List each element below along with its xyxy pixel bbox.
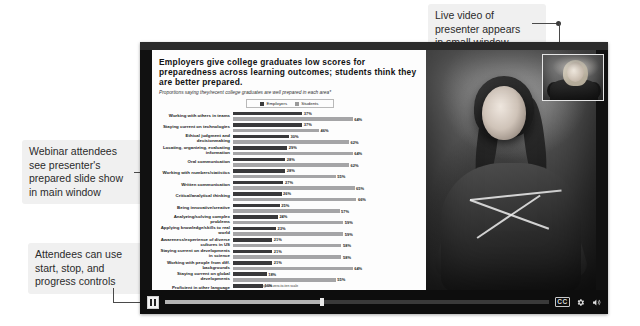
chart-row: Written communication27%65%: [159, 180, 420, 191]
webinar-window: Employers give college graduates low sco…: [140, 42, 608, 314]
bar-segment: [233, 163, 349, 167]
pause-icon[interactable]: [147, 296, 159, 309]
chart-bar-students: 65%: [233, 186, 420, 191]
bar-value-label: 28%: [287, 168, 295, 173]
bar-value-label: 55%: [337, 174, 345, 179]
chart-row: Applying knowledge/skills to real world2…: [159, 226, 420, 237]
bar-value-label: 55%: [337, 277, 345, 282]
bar-segment: [233, 112, 302, 116]
progress-bar[interactable]: [165, 300, 549, 304]
bar-value-label: 21%: [274, 249, 282, 254]
bar-segment: [233, 227, 276, 231]
bar-segment: [233, 169, 285, 173]
bar-value-label: 21%: [274, 237, 282, 242]
legend-label-employers: Employers: [266, 101, 287, 106]
bar-segment: [233, 152, 353, 156]
chart-bar-employers: 28%: [233, 157, 420, 162]
bar-value-label: 28%: [287, 157, 295, 162]
bar-value-label: 64%: [354, 117, 362, 122]
bar-value-label: 46%: [321, 128, 329, 133]
window-title-bar: [140, 42, 608, 50]
chart-bar-employers: 25%: [233, 203, 420, 208]
bar-value-label: 62%: [350, 140, 358, 145]
bar-value-label: 21%: [274, 260, 282, 265]
progress-handle[interactable]: [320, 298, 324, 306]
chart-row-bars: 21%58%: [233, 249, 420, 260]
chart-row: Staying current on technologies37%46%: [159, 122, 420, 133]
chart-row: Critical/analytical thinking26%66%: [159, 191, 420, 202]
chart-legend: Employers Students: [246, 99, 334, 108]
chart-bar-employers: 21%: [233, 260, 420, 265]
chart-row-label: Working with others in teams: [159, 114, 233, 119]
bar-value-label: 64%: [354, 266, 362, 271]
bar-value-label: 26%: [283, 191, 291, 196]
bar-segment: [233, 255, 341, 259]
bar-segment: [233, 215, 278, 219]
chart-bar-employers: 37%: [233, 122, 420, 127]
chart-bar-students: 62%: [233, 163, 420, 168]
chart-row-label: Critical/analytical thinking: [159, 194, 233, 199]
bar-segment: [233, 209, 340, 213]
chart-row: Awareness/experience of diverse cultures…: [159, 237, 420, 248]
chart-row: Locating, organizing, evaluating informa…: [159, 145, 420, 156]
bar-segment: [233, 181, 283, 185]
chart-row-label: Working with people from diff. backgroun…: [159, 261, 233, 271]
presenter-video-thumbnail[interactable]: [542, 54, 604, 101]
chart-title: Employers give college graduates low sco…: [159, 57, 420, 87]
chart-row-bars: 25%57%: [233, 203, 420, 214]
chart-row-label: Ethical judgment and decisionmaking: [159, 134, 233, 144]
bar-segment: [233, 198, 356, 202]
legend-swatch-employers: [260, 102, 264, 106]
chart-bar-employers: 21%: [233, 237, 420, 242]
chart-bar-students: 58%: [233, 243, 420, 248]
chart-row-label: Staying current on global developments: [159, 272, 233, 282]
bar-segment: [233, 158, 285, 162]
bar-segment: [233, 186, 355, 190]
chart-bar-students: 59%: [233, 220, 420, 225]
bar-segment: [233, 267, 353, 271]
annotation-slide-show: Webinar attendees see presenter's prepar…: [22, 140, 148, 204]
chart-row-bars: 28%62%: [233, 157, 420, 168]
chart-row: Staying current on developments in scien…: [159, 249, 420, 260]
bar-value-label: 25%: [281, 203, 289, 208]
chart-row-label: Locating, organizing, evaluating informa…: [159, 146, 233, 156]
pause-bar-left: [150, 299, 152, 306]
legend-entry-employers: Employers: [260, 101, 287, 106]
bar-value-label: 27%: [285, 180, 293, 185]
bar-value-label: 30%: [291, 134, 299, 139]
bar-segment: [233, 232, 343, 236]
legend-label-students: Students: [301, 101, 318, 106]
chart-bar-students: 62%: [233, 140, 420, 145]
chart-bar-students: 64%: [233, 117, 420, 122]
chart-row-label: Analyzing/solving complex problems: [159, 215, 233, 225]
chart-row-bars: 28%55%: [233, 168, 420, 179]
bar-value-label: 57%: [341, 209, 349, 214]
chart-row: Ethical judgment and decisionmaking30%62…: [159, 134, 420, 145]
chart-row-bars: 26%66%: [233, 191, 420, 202]
volume-icon[interactable]: [591, 298, 601, 307]
chart-row-bars: 23%59%: [233, 226, 420, 237]
chart-bar-employers: 27%: [233, 180, 420, 185]
chart-bar-students: 58%: [233, 255, 420, 260]
chart-row-bars: 21%58%: [233, 237, 420, 248]
chart-row-label: Awareness/experience of diverse cultures…: [159, 238, 233, 248]
bar-segment: [233, 192, 282, 196]
bar-segment: [233, 123, 302, 127]
chart-bar-employers: 18%: [233, 272, 420, 277]
bar-segment: [233, 146, 287, 150]
chart-row-bars: 29%64%: [233, 145, 420, 156]
bar-segment: [233, 272, 267, 276]
chart-bar-employers: 30%: [233, 134, 420, 139]
chart-bar-students: 64%: [233, 266, 420, 271]
gear-icon[interactable]: [576, 298, 585, 307]
bar-value-label: 64%: [354, 151, 362, 156]
leader-line-controls-down: [113, 288, 114, 302]
chart-bar-employers: 28%: [233, 168, 420, 173]
bar-segment: [233, 278, 336, 282]
chart-bar-employers: 29%: [233, 145, 420, 150]
chart-bar-rows: Working with others in teams37%64%Stayin…: [159, 111, 420, 290]
chart-row-label: Applying knowledge/skills to real world: [159, 226, 233, 236]
cc-icon[interactable]: CC: [555, 297, 570, 307]
chart-bar-employers: 23%: [233, 226, 420, 231]
bar-segment: [233, 135, 289, 139]
